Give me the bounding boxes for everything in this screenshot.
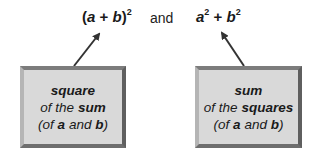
box-square-of-sum: square of the sum (of a and b) (20, 66, 126, 148)
label-a: a (58, 117, 66, 132)
label-and: and (241, 117, 271, 132)
label-of: (of (38, 117, 58, 132)
label-of-the: of the (40, 100, 78, 115)
label-a: a (233, 117, 241, 132)
box-line-2: of the squares (204, 99, 293, 116)
label-of-the: of the (204, 100, 242, 115)
label-close: ) (279, 117, 284, 132)
label-b: b (271, 117, 279, 132)
label-of: (of (214, 117, 234, 132)
label-squares: squares (241, 100, 293, 115)
label-sum: sum (78, 100, 106, 115)
arrow-right (222, 33, 244, 66)
box-line-1: sum (235, 82, 263, 99)
box-sum-of-squares: sum of the squares (of a and b) (195, 66, 302, 148)
box-line-3: (of a and b) (214, 116, 284, 133)
box-line-2: of the sum (40, 99, 105, 116)
arrow-left (74, 34, 99, 66)
label-and: and (65, 117, 95, 132)
label-sum: sum (235, 83, 263, 98)
box-line-1: square (51, 82, 95, 99)
label-square: square (51, 83, 95, 98)
label-close: ) (103, 117, 108, 132)
box-line-3: (of a and b) (38, 116, 108, 133)
